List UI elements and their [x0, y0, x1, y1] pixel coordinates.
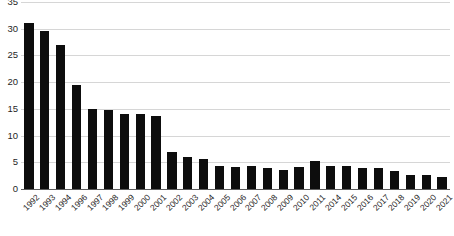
y-axis-labels: 05101520253035 [0, 0, 21, 190]
bar [374, 168, 383, 189]
bar [136, 114, 145, 189]
bar [56, 45, 65, 189]
y-axis-tick-label: 5 [13, 157, 18, 167]
bar [263, 168, 272, 189]
bar [390, 171, 399, 189]
bar [215, 166, 224, 190]
bar [231, 167, 240, 189]
bar [247, 166, 256, 190]
bar [199, 159, 208, 189]
bar [24, 23, 33, 189]
bar [279, 170, 288, 189]
bar [358, 168, 367, 189]
y-axis-tick-label: 0 [13, 184, 18, 194]
bar [342, 166, 351, 189]
bar [167, 152, 176, 189]
bar [40, 31, 49, 189]
bar-series [21, 0, 450, 190]
bar [437, 177, 446, 189]
bar [294, 167, 303, 189]
x-axis-labels: 1992199319941996199719981999200020012002… [21, 190, 450, 236]
bar [326, 166, 335, 190]
y-axis-tick-label: 35 [7, 0, 18, 7]
y-axis-tick-label: 15 [7, 104, 18, 114]
y-axis-tick-label: 30 [7, 24, 18, 34]
bar [183, 157, 192, 189]
bar [406, 175, 415, 189]
bar [120, 114, 129, 189]
y-axis-tick-label: 25 [7, 50, 18, 60]
bar [151, 116, 160, 189]
bar [88, 109, 97, 189]
bar [422, 175, 431, 189]
y-axis-tick-label: 20 [7, 77, 18, 87]
bar [72, 85, 81, 189]
bar [104, 110, 113, 189]
y-axis-tick-label: 10 [7, 131, 18, 141]
bar [310, 161, 319, 189]
